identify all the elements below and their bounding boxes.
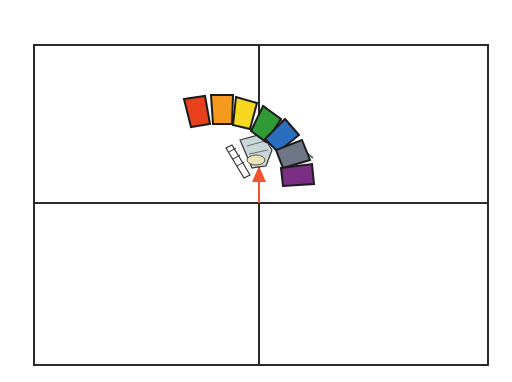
color-swatch-red[interactable]	[184, 96, 210, 127]
color-swatch-purple[interactable]	[281, 164, 314, 186]
color-swatch-orange[interactable]	[211, 95, 233, 124]
palette-overlay	[0, 0, 512, 382]
pointer-arrow-icon	[252, 166, 266, 203]
